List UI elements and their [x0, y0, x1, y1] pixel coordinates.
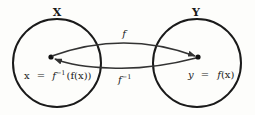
arrow-f: f	[52, 28, 195, 56]
element-x-label: x = f−1(f(x))	[24, 64, 92, 83]
arrow-f-curve	[52, 43, 195, 56]
set-x-circle	[13, 19, 101, 107]
set-x: X x = f−1(f(x))	[13, 6, 101, 107]
arrow-f-inverse-curve	[55, 58, 196, 68]
inverse-function-diagram: X x = f−1(f(x)) Y y = f(x) f f−1	[0, 0, 255, 115]
element-y-label: y = f(x)	[187, 63, 234, 82]
arrow-f-label: f	[121, 28, 128, 39]
arrow-f-inverse-label: f−1	[117, 73, 131, 85]
set-y-label: Y	[191, 6, 200, 19]
set-y: Y y = f(x)	[153, 6, 241, 107]
set-x-label: X	[53, 6, 62, 19]
element-y-dot	[195, 54, 200, 59]
